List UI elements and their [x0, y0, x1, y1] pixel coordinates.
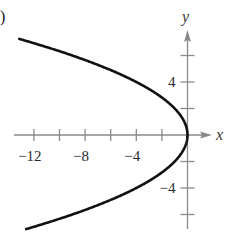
- panel-label: ): [0, 8, 5, 26]
- y-tick-label: −4: [160, 180, 176, 196]
- x-tick-label: −12: [18, 148, 41, 164]
- x-tick-label: −8: [73, 148, 89, 164]
- x-tick-label: −4: [124, 148, 140, 164]
- y-axis-label: y: [180, 8, 190, 26]
- x-axis-label: x: [215, 126, 223, 143]
- parabola-chart: ) −12−8−44−4 x y: [0, 0, 227, 236]
- y-tick-label: 4: [168, 74, 176, 90]
